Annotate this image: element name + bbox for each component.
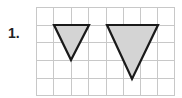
grid <box>36 7 175 96</box>
large-triangle <box>107 25 158 79</box>
grid-figure <box>0 0 182 98</box>
